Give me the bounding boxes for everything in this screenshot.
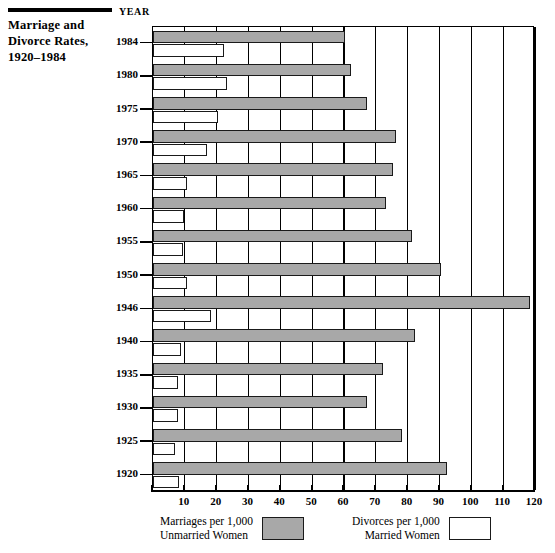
- bar-divorces-1940: [153, 343, 181, 356]
- x-tick-40: [279, 485, 280, 492]
- title-line-2: Divorce Rates,: [8, 33, 116, 49]
- year-label-1940: 1940: [116, 334, 138, 346]
- bar-divorces-1975: [153, 111, 218, 124]
- legend-divorces-line1: Divorces per 1,000: [352, 515, 440, 527]
- x-label-120: 120: [526, 495, 543, 507]
- bar-divorces-1980: [153, 77, 227, 90]
- bar-marriages-1935: [153, 363, 383, 376]
- bar-divorces-1984: [153, 44, 224, 57]
- bar-divorces-1946: [153, 310, 211, 323]
- bar-marriages-1940: [153, 329, 415, 342]
- x-tick-90: [438, 485, 439, 492]
- bar-divorces-1955: [153, 243, 183, 256]
- x-tick-80: [406, 485, 407, 492]
- legend-marriages-line2: Unmarried Women: [160, 528, 253, 542]
- year-label-1984: 1984: [116, 35, 138, 47]
- bar-marriages-1946: [153, 296, 530, 309]
- x-tick-10: [183, 485, 184, 492]
- x-label-30: 30: [242, 495, 253, 507]
- bar-marriages-1975: [153, 97, 367, 110]
- bar-divorces-1965: [153, 177, 187, 190]
- year-label-1925: 1925: [116, 434, 138, 446]
- x-tick-20: [215, 485, 216, 492]
- bar-divorces-1970: [153, 144, 207, 157]
- x-label-40: 40: [274, 495, 285, 507]
- year-label-1965: 1965: [116, 168, 138, 180]
- bar-marriages-1925: [153, 429, 402, 442]
- x-tick-60: [342, 485, 343, 492]
- legend-divorces-line2: Married Women: [352, 528, 440, 542]
- chart-legend: Marriages per 1,000 Unmarried Women Divo…: [152, 514, 552, 548]
- bar-marriages-1970: [153, 130, 396, 143]
- year-label-1930: 1930: [116, 400, 138, 412]
- x-label-10: 10: [178, 495, 189, 507]
- bar-divorces-1950: [153, 277, 187, 290]
- chart-plot-area: [152, 26, 534, 491]
- bar-marriages-1920: [153, 462, 447, 475]
- x-label-110: 110: [494, 495, 510, 507]
- x-label-90: 90: [433, 495, 444, 507]
- x-tick-120: [533, 485, 534, 492]
- x-label-80: 80: [401, 495, 412, 507]
- title-rule: [8, 8, 112, 12]
- x-label-70: 70: [369, 495, 380, 507]
- x-tick-30: [247, 485, 248, 492]
- x-tick-50: [311, 485, 312, 492]
- legend-marriages-line1: Marriages per 1,000: [160, 515, 253, 527]
- gridline-120: [534, 27, 535, 490]
- legend-item-marriages: Marriages per 1,000 Unmarried Women: [160, 514, 304, 542]
- x-label-20: 20: [210, 495, 221, 507]
- bar-marriages-1960: [153, 197, 386, 210]
- year-axis-caption: YEAR: [119, 6, 150, 17]
- x-tick-0: [151, 485, 152, 492]
- page-title: Marriage and Divorce Rates, 1920–1984: [8, 17, 116, 65]
- year-label-1980: 1980: [116, 68, 138, 80]
- year-label-1920: 1920: [116, 467, 138, 479]
- title-line-1: Marriage and: [8, 17, 116, 33]
- x-label-100: 100: [462, 495, 479, 507]
- bar-marriages-1980: [153, 64, 351, 77]
- bar-marriages-1984: [153, 31, 345, 44]
- legend-item-divorces: Divorces per 1,000 Married Women: [352, 514, 491, 542]
- bar-marriages-1950: [153, 263, 441, 276]
- legend-label-divorces: Divorces per 1,000 Married Women: [352, 514, 440, 542]
- bar-divorces-1935: [153, 376, 178, 389]
- year-label-1950: 1950: [116, 268, 138, 280]
- year-label-1975: 1975: [116, 102, 138, 114]
- title-block: Marriage and Divorce Rates, 1920–1984: [8, 8, 116, 65]
- x-label-60: 60: [338, 495, 349, 507]
- title-line-3: 1920–1984: [8, 49, 116, 65]
- x-tick-110: [502, 485, 503, 492]
- bar-divorces-1920: [153, 476, 179, 489]
- legend-swatch-divorces: [449, 517, 491, 540]
- bar-marriages-1955: [153, 230, 412, 243]
- year-label-1946: 1946: [116, 301, 138, 313]
- bar-marriages-1965: [153, 163, 393, 176]
- year-label-1960: 1960: [116, 201, 138, 213]
- year-label-1935: 1935: [116, 367, 138, 379]
- year-label-1970: 1970: [116, 135, 138, 147]
- bar-divorces-1930: [153, 409, 178, 422]
- year-label-1955: 1955: [116, 234, 138, 246]
- bar-divorces-1960: [153, 210, 184, 223]
- bar-marriages-1930: [153, 396, 367, 409]
- x-tick-70: [374, 485, 375, 492]
- bar-divorces-1925: [153, 443, 175, 456]
- bar-group: [153, 27, 533, 490]
- legend-label-marriages: Marriages per 1,000 Unmarried Women: [160, 514, 253, 542]
- x-label-50: 50: [306, 495, 317, 507]
- x-tick-100: [470, 485, 471, 492]
- legend-swatch-marriages: [262, 517, 304, 540]
